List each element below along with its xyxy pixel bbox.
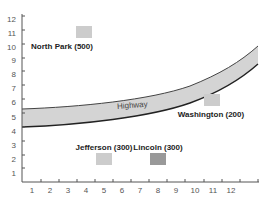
x-label-3: 3 <box>66 186 71 195</box>
x-label-7: 7 <box>138 186 143 195</box>
x-label-9: 9 <box>174 186 179 195</box>
x-label-10: 10 <box>191 186 200 195</box>
y-tick-labels: 12 11 10 9 8 7 6 5 4 3 2 1 <box>7 15 16 178</box>
y-label-8: 8 <box>12 70 17 79</box>
lincoln-label: Lincoln (300) <box>133 143 183 152</box>
y-label-12: 12 <box>7 15 16 24</box>
x-label-1: 1 <box>30 186 35 195</box>
y-label-6: 6 <box>12 98 17 107</box>
washington-marker <box>204 94 220 106</box>
y-label-1: 1 <box>12 169 17 178</box>
y-label-3: 3 <box>12 141 17 150</box>
jefferson-marker <box>96 153 112 165</box>
x-label-2: 2 <box>48 186 53 195</box>
x-label-5: 5 <box>102 186 107 195</box>
y-label-2: 2 <box>12 155 17 164</box>
x-label-8: 8 <box>156 186 161 195</box>
north-park-marker <box>76 26 92 38</box>
y-label-4: 4 <box>12 127 17 136</box>
x-label-11: 11 <box>209 186 218 195</box>
y-label-7: 7 <box>12 84 17 93</box>
y-label-5: 5 <box>12 113 17 122</box>
lincoln-marker <box>150 153 166 165</box>
y-label-10: 10 <box>7 43 16 52</box>
y-label-9: 9 <box>12 56 17 65</box>
north-park-label: North Park (500) <box>31 42 93 51</box>
jefferson-label: Jefferson (300) <box>76 143 133 152</box>
x-label-4: 4 <box>84 186 89 195</box>
x-label-12: 12 <box>227 186 236 195</box>
x-label-6: 6 <box>120 186 125 195</box>
map-diagram: Highway 12 11 10 9 8 7 6 5 4 3 2 1 <box>0 0 276 198</box>
washington-label: Washington (200) <box>178 110 245 119</box>
y-label-11: 11 <box>8 29 17 38</box>
x-tick-labels: 1 2 3 4 5 6 7 8 9 10 11 12 <box>30 186 236 195</box>
